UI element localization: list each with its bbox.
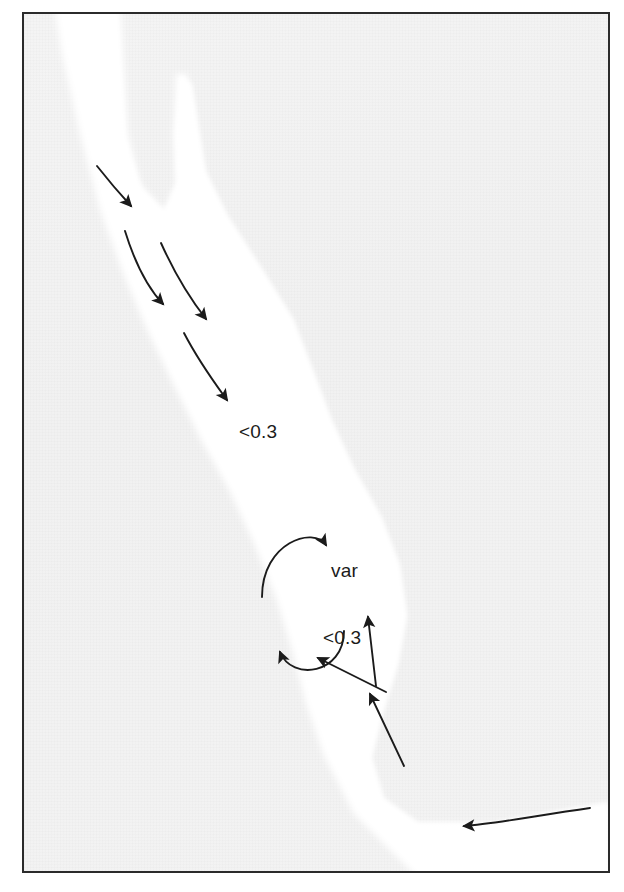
water-body-core (68, 14, 608, 871)
label-speed-lower: <0.3 (323, 627, 361, 649)
label-circulation-var: var (331, 560, 358, 582)
figure-root: <0.3 var <0.3 (0, 0, 624, 892)
circulation-map-svg (24, 14, 608, 871)
label-speed-upper: <0.3 (239, 421, 277, 443)
figure-frame: <0.3 var <0.3 (22, 12, 610, 873)
